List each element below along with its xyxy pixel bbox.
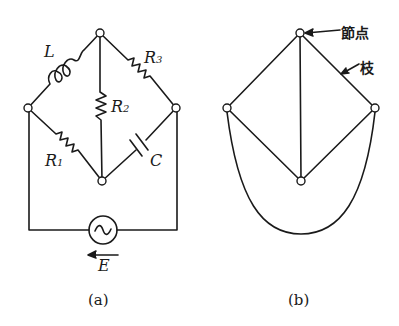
r1-label: R1 bbox=[45, 151, 63, 170]
node-a-top bbox=[96, 29, 104, 37]
r1-letter: R bbox=[45, 151, 57, 170]
caption-a: (a) bbox=[88, 291, 109, 309]
resistor-r1-symbol bbox=[28, 108, 102, 181]
node-a-left bbox=[24, 104, 32, 112]
r3-subscript: 3 bbox=[156, 54, 162, 65]
node-label: 節点 bbox=[341, 22, 369, 42]
caption-b: (b) bbox=[288, 291, 309, 309]
capacitor-wire-upper bbox=[146, 108, 176, 140]
e-arrow-head bbox=[88, 251, 96, 258]
right-source-wire bbox=[117, 112, 177, 230]
capacitor-wire-lower bbox=[102, 150, 136, 181]
node-b-left bbox=[223, 104, 231, 112]
r2-subscript: 2 bbox=[123, 103, 129, 114]
left-source-wire bbox=[29, 112, 89, 230]
node-a-right bbox=[172, 104, 180, 112]
source-label: E bbox=[98, 256, 110, 275]
branch-top-bottom bbox=[300, 33, 301, 181]
branch-top-left bbox=[227, 33, 300, 108]
node-b-top bbox=[296, 29, 304, 37]
node-a-bottom bbox=[98, 177, 106, 185]
ac-wave bbox=[95, 226, 111, 235]
node-arrow-head bbox=[305, 29, 313, 36]
capacitor-plate-2 bbox=[136, 134, 148, 150]
resistor-r2-symbol bbox=[96, 33, 106, 181]
r2-letter: R bbox=[111, 97, 123, 116]
node-b-bottom bbox=[297, 177, 305, 185]
branch-label: 枝 bbox=[360, 57, 374, 77]
inductor-symbol bbox=[28, 33, 100, 108]
capacitor-label: C bbox=[150, 151, 162, 170]
r3-label: R3 bbox=[144, 48, 162, 67]
branch-arrow-head bbox=[341, 68, 349, 74]
node-b-right bbox=[371, 104, 379, 112]
r1-subscript: 1 bbox=[57, 157, 63, 168]
inductor-label: L bbox=[44, 42, 55, 61]
r2-label: R2 bbox=[111, 97, 129, 116]
r3-letter: R bbox=[144, 48, 156, 67]
